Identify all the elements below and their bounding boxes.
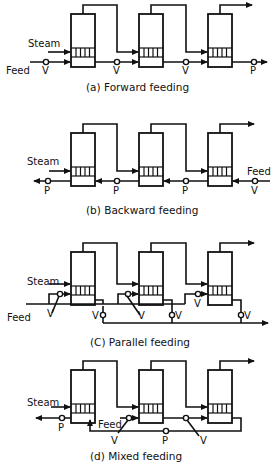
pump-label: P [58,422,64,433]
pump-icon [59,415,64,420]
pump-label: P [182,185,188,196]
panel-mixed-feeding: Steam Feed P V P V (d) Mixed feeding [27,361,254,462]
steam-label: Steam [28,38,60,49]
valve-icon [195,291,200,296]
panel-backward-feeding: Steam Feed P P P V (b) Backward feeding [27,124,271,216]
pump-label: P [44,185,50,196]
valve-icon [57,291,62,296]
evaporator-3 [208,370,232,423]
valve-label: V [92,310,99,321]
product-drop-3 [232,300,241,323]
caption: (b) Backward feeding [86,204,198,216]
valve-label: V [47,308,54,319]
caption: (C) Parallel feeding [90,336,190,348]
evaporator-1 [71,14,95,67]
valve-label: V [175,310,182,321]
evaporator-feeding-diagram: Steam Feed V V V P (a) Forward feeding S… [0,0,276,467]
valve-label: V [111,435,118,446]
evaporator-1 [71,133,95,186]
vapor-outlet [220,361,254,370]
steam-label: Steam [27,397,59,408]
feed-label: Feed [6,65,30,76]
valve-label: V [113,65,120,76]
pump-icon [45,178,50,183]
evaporator-2 [139,252,163,305]
vapor-outlet [220,5,252,14]
vapor-outlet [220,243,254,252]
feed-label: Feed [98,419,122,430]
valve-icon [238,312,243,317]
valve-leader [187,420,199,436]
evaporator-3 [208,133,232,186]
evaporator-2 [139,133,163,186]
evaporator-1 [71,370,95,423]
evaporator-2 [139,370,163,423]
valve-icon [100,312,105,317]
valve-icon [169,312,174,317]
panel-forward-feeding: Steam Feed V V V P (a) Forward feeding [6,5,267,93]
caption: (a) Forward feeding [86,81,189,93]
caption: (d) Mixed feeding [90,450,182,462]
evaporator-2 [139,14,163,67]
valve-label: V [200,435,207,446]
valve-label: V [194,298,201,309]
pump-label: P [113,185,119,196]
evaporator-1 [71,252,95,305]
pump-icon [114,178,119,183]
pump-icon [163,428,168,433]
valve-label: V [251,185,258,196]
valve-icon [43,59,48,64]
evaporator-3 [208,252,232,305]
pump-icon [183,59,188,64]
panel-parallel-feeding: Steam Feed V V V V V V (C) Parallel feed… [7,243,268,348]
pump-icon [251,59,256,64]
feed-label: Feed [247,166,271,177]
valve-icon [114,59,119,64]
valve-icon [252,178,257,183]
valve-label: V [244,310,251,321]
feed-label: Feed [7,312,31,323]
pump-label: P [162,435,168,446]
pump-label: P [250,65,256,76]
steam-label: Steam [27,156,59,167]
pump-icon [183,178,188,183]
valve-label: V [138,310,145,321]
valve-label: V [182,65,189,76]
valve-label: V [42,65,49,76]
steam-label: Steam [27,276,59,287]
valve-icon [125,291,130,296]
vapor-outlet [220,124,254,133]
evaporator-3 [208,14,232,67]
